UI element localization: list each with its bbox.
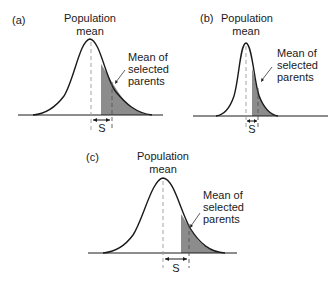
panel-b-selected-label-line2: selected bbox=[277, 59, 318, 71]
selection-diagram: (a) Population mean S Mean of selected p… bbox=[0, 0, 330, 283]
panel-c-s-label: S bbox=[172, 262, 179, 274]
panel-c-population-mean-label-line1: Population bbox=[137, 150, 189, 162]
panel-a: (a) Population mean S Mean of selected p… bbox=[12, 12, 169, 134]
panel-a-pointer-line bbox=[116, 70, 125, 82]
panel-b-distribution-curve bbox=[216, 43, 278, 116]
panel-a-label: (a) bbox=[12, 14, 25, 26]
panel-c-pointer-line bbox=[191, 213, 200, 226]
panel-b-selected-area bbox=[252, 68, 278, 116]
panel-a-population-mean-label-line2: mean bbox=[76, 25, 104, 37]
panel-c-selected-label-line3: parents bbox=[203, 213, 240, 225]
panel-c-selected-label-line2: selected bbox=[203, 201, 244, 213]
panel-b-pointer-line bbox=[262, 67, 272, 80]
panel-c-population-mean-label-line2: mean bbox=[149, 163, 177, 175]
panel-b-selected-label-line3: parents bbox=[277, 71, 314, 83]
panel-a-population-mean-label-line1: Population bbox=[64, 12, 116, 24]
panel-b-s-label: S bbox=[248, 123, 255, 135]
panel-b: (b) Population mean S Mean of selected p… bbox=[193, 12, 328, 135]
panel-c: (c) Population mean S Mean of selected p… bbox=[86, 150, 244, 274]
panel-b-population-mean-label-line1: Population bbox=[221, 12, 273, 24]
panel-b-pointer-arrowhead bbox=[261, 78, 264, 82]
panel-b-selected-label-line1: Mean of bbox=[277, 47, 318, 59]
panel-a-pointer-arrowhead bbox=[115, 80, 118, 84]
panel-a-selected-label-line3: parents bbox=[128, 75, 165, 87]
panel-c-pointer-arrowhead bbox=[190, 224, 193, 228]
panel-a-selected-label-line1: Mean of bbox=[128, 51, 169, 63]
panel-c-label: (c) bbox=[86, 151, 99, 163]
panel-b-population-mean-label-line2: mean bbox=[232, 25, 260, 37]
panel-a-s-label: S bbox=[98, 122, 105, 134]
panel-b-label: (b) bbox=[200, 12, 213, 24]
panel-a-selected-label-line2: selected bbox=[128, 63, 169, 75]
panel-c-selected-label-line1: Mean of bbox=[203, 189, 244, 201]
